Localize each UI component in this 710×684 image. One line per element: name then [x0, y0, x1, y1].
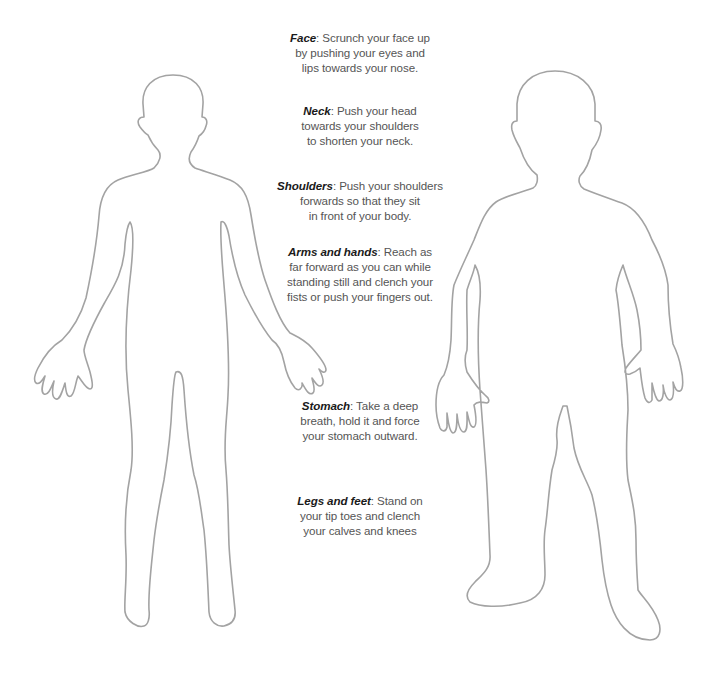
instruction-stomach-line-2: breath, hold it and force: [270, 413, 450, 428]
instruction-face-line-3: lips towards your nose.: [270, 60, 450, 75]
instruction-neck-line-3: to shorten your neck.: [270, 133, 450, 148]
instruction-stomach-line-1: Stomach: Take a deep: [270, 398, 450, 413]
instruction-stomach-line-3: your stomach outward.: [270, 428, 450, 443]
instruction-neck-line-1: Neck: Push your head: [270, 103, 450, 118]
instruction-stomach-label: Stomach: [302, 399, 350, 412]
instruction-arms-line-1: Arms and hands: Reach as: [270, 244, 450, 259]
instruction-legs-line-1: Legs and feet: Stand on: [270, 493, 450, 508]
instruction-legs-label: Legs and feet: [297, 494, 370, 507]
instruction-neck-label: Neck: [303, 104, 330, 117]
instruction-legs-and-feet: Legs and feet: Stand on your tip toes an…: [270, 493, 450, 538]
instruction-face-label: Face: [290, 31, 316, 44]
instruction-stomach: Stomach: Take a deep breath, hold it and…: [270, 398, 450, 443]
instruction-arms-label: Arms and hands: [288, 245, 377, 258]
instruction-neck-line-2: towards your shoulders: [270, 118, 450, 133]
instruction-shoulders-line-1: Shoulders: Push your shoulders: [270, 178, 450, 193]
instruction-shoulders-line-3: in front of your body.: [270, 208, 450, 223]
instruction-shoulders: Shoulders: Push your shoulders forwards …: [270, 178, 450, 223]
right-body-silhouette: [436, 71, 683, 640]
instruction-arms-line-4: fists or push your fingers out.: [270, 289, 450, 304]
instruction-shoulders-line-2: forwards so that they sit: [270, 193, 450, 208]
instruction-face-line-2: by pushing your eyes and: [270, 45, 450, 60]
left-body-silhouette: [35, 75, 326, 626]
instruction-legs-line-2: your tip toes and clench: [270, 508, 450, 523]
instruction-arms-line-2: far forward as you can while: [270, 259, 450, 274]
instruction-neck: Neck: Push your head towards your should…: [270, 103, 450, 148]
instruction-arms-line-3: standing still and clench your: [270, 274, 450, 289]
instruction-face-line-1: Face: Scrunch your face up: [270, 30, 450, 45]
instruction-face: Face: Scrunch your face up by pushing yo…: [270, 30, 450, 75]
instruction-arms-and-hands: Arms and hands: Reach as far forward as …: [270, 244, 450, 304]
instruction-shoulders-label: Shoulders: [277, 179, 333, 192]
instruction-legs-line-3: your calves and knees: [270, 523, 450, 538]
